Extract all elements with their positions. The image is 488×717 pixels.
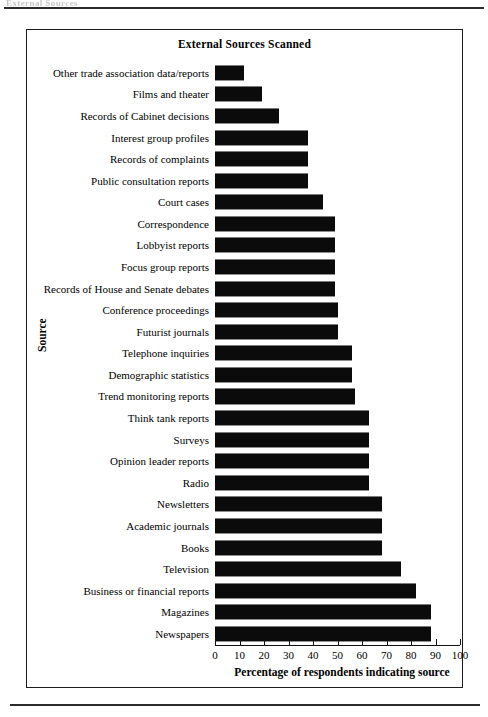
bar-category-label: Television bbox=[163, 564, 209, 575]
bar-category-label: Futurist journals bbox=[137, 326, 209, 337]
bar-row: Surveys bbox=[215, 429, 460, 451]
bar-category-label: Think tank reports bbox=[128, 413, 209, 424]
figure-frame: External Sources Scanned Source Other tr… bbox=[26, 29, 463, 688]
bar bbox=[215, 389, 355, 404]
bar-category-label: Books bbox=[181, 542, 209, 553]
bar-category-label: Films and theater bbox=[133, 89, 209, 100]
bar-category-label: Other trade association data/reports bbox=[53, 67, 209, 78]
bar bbox=[215, 216, 335, 231]
x-axis-tick-label: 90 bbox=[430, 649, 441, 661]
bar-category-label: Opinion leader reports bbox=[110, 456, 209, 467]
x-axis-tick-label: 50 bbox=[332, 649, 343, 661]
bar bbox=[215, 518, 382, 533]
bar bbox=[215, 108, 279, 123]
bar bbox=[215, 281, 335, 296]
bar bbox=[215, 87, 262, 102]
chart-title: External Sources Scanned bbox=[27, 38, 462, 50]
bar-category-label: Lobbyist reports bbox=[137, 240, 209, 251]
bar bbox=[215, 173, 308, 188]
bar-row: Opinion leader reports bbox=[215, 450, 460, 472]
bar bbox=[215, 497, 382, 512]
bar bbox=[215, 346, 352, 361]
x-axis-tick bbox=[436, 639, 437, 645]
bar-row: Interest group profiles bbox=[215, 127, 460, 149]
bar bbox=[215, 303, 338, 318]
x-axis-tick-label: 80 bbox=[406, 649, 417, 661]
bar-category-label: Academic journals bbox=[126, 520, 209, 531]
bar bbox=[215, 130, 308, 145]
bar bbox=[215, 259, 335, 274]
bar bbox=[215, 475, 369, 490]
x-axis-tick bbox=[215, 639, 216, 645]
bar-row: Conference proceedings bbox=[215, 299, 460, 321]
y-axis-title: Source bbox=[36, 318, 48, 352]
x-axis-tick bbox=[313, 639, 314, 645]
bar bbox=[215, 410, 369, 425]
bar-category-label: Interest group profiles bbox=[111, 132, 209, 143]
bar-category-label: Demographic statistics bbox=[108, 369, 209, 380]
bar-category-label: Records of House and Senate debates bbox=[44, 283, 209, 294]
bar-row: Records of Cabinet decisions bbox=[215, 105, 460, 127]
x-axis-tick-label: 70 bbox=[381, 649, 392, 661]
bar-row: Public consultation reports bbox=[215, 170, 460, 192]
bar-category-label: Surveys bbox=[174, 434, 209, 445]
x-axis-tick-label: 100 bbox=[452, 649, 469, 661]
bar bbox=[215, 605, 431, 620]
bar-row: Correspondence bbox=[215, 213, 460, 235]
bar-row: Trend monitoring reports bbox=[215, 386, 460, 408]
bar-category-label: Public consultation reports bbox=[91, 175, 209, 186]
bar-row: Television bbox=[215, 558, 460, 580]
bar-row: Films and theater bbox=[215, 84, 460, 106]
x-axis: 0102030405060708090100 bbox=[215, 645, 460, 646]
bar-category-label: Records of Cabinet decisions bbox=[80, 110, 209, 121]
bar bbox=[215, 562, 401, 577]
x-axis-tick-label: 40 bbox=[308, 649, 319, 661]
bar-row: Telephone inquiries bbox=[215, 343, 460, 365]
bar bbox=[215, 195, 323, 210]
bar-category-label: Telephone inquiries bbox=[122, 348, 209, 359]
bar-category-label: Newspapers bbox=[155, 628, 209, 639]
x-axis-tick-label: 10 bbox=[234, 649, 245, 661]
bar-category-label: Newsletters bbox=[157, 499, 209, 510]
bar-row: Court cases bbox=[215, 191, 460, 213]
bar bbox=[215, 367, 352, 382]
bar-row: Newsletters bbox=[215, 494, 460, 516]
bar-row: Focus group reports bbox=[215, 256, 460, 278]
x-axis-tick bbox=[362, 639, 363, 645]
x-axis-tick bbox=[289, 639, 290, 645]
x-axis-tick bbox=[264, 639, 265, 645]
bar-row: Other trade association data/reports bbox=[215, 62, 460, 84]
x-axis-tick bbox=[460, 639, 461, 645]
bar-category-label: Court cases bbox=[158, 197, 209, 208]
bar bbox=[215, 65, 244, 80]
bar-row: Academic journals bbox=[215, 515, 460, 537]
x-axis-tick-label: 0 bbox=[212, 649, 218, 661]
bar bbox=[215, 324, 338, 339]
footer-rule bbox=[10, 704, 480, 706]
x-axis-tick bbox=[338, 639, 339, 645]
plot-area: Other trade association data/reportsFilm… bbox=[215, 62, 460, 645]
bar-category-label: Business or financial reports bbox=[83, 585, 209, 596]
bar-category-label: Radio bbox=[183, 477, 209, 488]
bar-category-label: Records of complaints bbox=[110, 154, 209, 165]
bar-category-label: Magazines bbox=[161, 607, 209, 618]
bar bbox=[215, 432, 369, 447]
bar-row: Records of House and Senate debates bbox=[215, 278, 460, 300]
bar bbox=[215, 626, 431, 641]
bar-row: Books bbox=[215, 537, 460, 559]
bar-row: Lobbyist reports bbox=[215, 235, 460, 257]
bar-row: Futurist journals bbox=[215, 321, 460, 343]
x-axis-tick-label: 20 bbox=[259, 649, 270, 661]
bar-category-label: Correspondence bbox=[138, 218, 209, 229]
x-axis-tick-label: 30 bbox=[283, 649, 294, 661]
x-axis-title: Percentage of respondents indicating sou… bbox=[177, 666, 488, 678]
header-rule bbox=[4, 7, 484, 9]
bar-category-label: Focus group reports bbox=[121, 261, 209, 272]
bar-row: Records of complaints bbox=[215, 148, 460, 170]
x-axis-tick bbox=[240, 639, 241, 645]
bar-category-label: Conference proceedings bbox=[102, 305, 209, 316]
bar-row: Magazines bbox=[215, 601, 460, 623]
bar-row: Radio bbox=[215, 472, 460, 494]
bar bbox=[215, 238, 335, 253]
x-axis-tick bbox=[411, 639, 412, 645]
